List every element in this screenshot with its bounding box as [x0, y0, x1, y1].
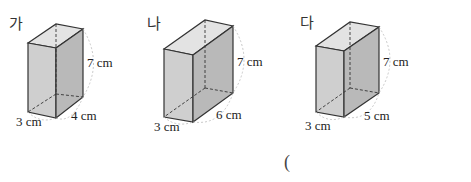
height-label-na: 7 cm [237, 55, 263, 68]
height-label-ga: 7 cm [87, 56, 113, 69]
figure-label-ga: 가 [9, 17, 23, 32]
figure-label-da: 다 [300, 16, 314, 31]
depth-label-ga: 4 cm [71, 109, 97, 122]
width-label-da: 3 cm [305, 119, 331, 132]
prism-da [316, 22, 390, 120]
figure-label-na: 나 [147, 17, 161, 32]
prism-figures: 가 7 cm 3 cm 4 cm 나 7 cm 3 cm 6 cm 다 7 cm… [0, 0, 471, 182]
width-label-ga: 3 cm [16, 115, 42, 128]
width-label-na: 3 cm [154, 120, 180, 133]
depth-label-na: 6 cm [216, 108, 242, 121]
prism-drawings [0, 0, 471, 182]
height-label-da: 7 cm [383, 55, 409, 68]
answer-open-paren: ( [284, 153, 290, 171]
depth-label-da: 5 cm [364, 109, 390, 122]
prism-ga [28, 24, 94, 120]
